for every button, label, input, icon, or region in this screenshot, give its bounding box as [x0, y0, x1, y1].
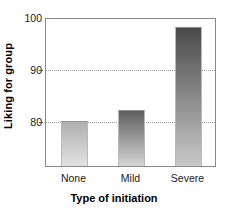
bar-mild	[118, 110, 145, 166]
y-tick-label: 100	[16, 13, 42, 23]
bar-severe	[175, 27, 202, 166]
bar-none	[61, 121, 88, 166]
y-tick-mark	[39, 70, 43, 71]
bar-chart-figure: Liking for group 8090100 Type of initiat…	[0, 0, 228, 216]
x-tick-label: Severe	[148, 172, 228, 184]
x-axis-title: Type of initiation	[0, 192, 228, 204]
y-tick-mark	[39, 122, 43, 123]
plot-area	[45, 18, 216, 167]
